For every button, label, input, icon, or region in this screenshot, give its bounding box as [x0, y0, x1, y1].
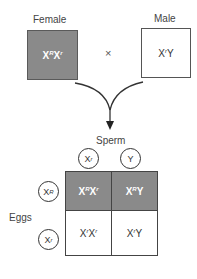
female-label: Female: [33, 14, 66, 25]
male-label: Male: [154, 13, 176, 24]
sperm-allele-y: Y: [120, 148, 141, 169]
punnett-cell-xrxr: XrXr: [65, 210, 112, 256]
punnett-cell-xRxr: XRXr: [65, 171, 112, 211]
male-genotype-box: XrY: [141, 28, 191, 78]
punnett-cell-xry: XrY: [111, 210, 158, 256]
eggs-label: Eggs: [9, 212, 32, 223]
male-genotype: XrY: [158, 48, 173, 59]
female-genotype-box: XRXr: [27, 30, 78, 80]
egg-allele-xR: XR: [38, 181, 59, 202]
female-genotype: XRXr: [42, 50, 62, 61]
sperm-label: Sperm: [96, 135, 125, 146]
punnett-cell-xRy: XRY: [111, 171, 158, 211]
egg-allele-xr: Xr: [38, 229, 59, 250]
cross-symbol: ×: [105, 47, 111, 59]
sperm-allele-xr: Xr: [78, 148, 99, 169]
